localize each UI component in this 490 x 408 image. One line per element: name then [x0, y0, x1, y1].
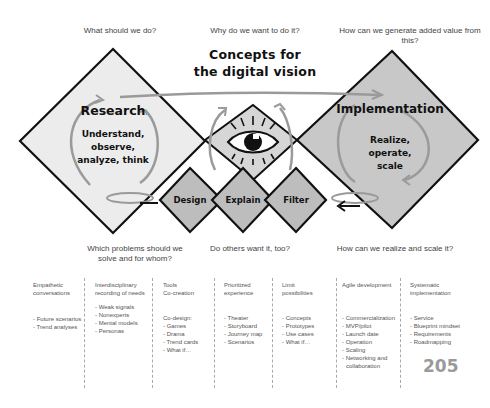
step-design: Design: [174, 195, 207, 205]
svg-text:Understand,: Understand,: [82, 129, 145, 139]
column-prioritized: Prioritizedexperience - Theater- Storybo…: [224, 281, 262, 346]
question-others-want: Do others want it, too?: [190, 244, 310, 254]
column-interdisciplinary: Interdisciplinaryrecording of needs - We…: [95, 281, 145, 335]
process-diagram: Research Understand, observe, analyze, t…: [0, 0, 490, 270]
question-realize-scale: How can we realize and scale it?: [330, 244, 460, 254]
implementation-title: Implementation: [336, 102, 443, 116]
svg-text:Realize,: Realize,: [370, 135, 410, 145]
step-filter: Filter: [283, 195, 309, 205]
column-separator: [400, 278, 401, 388]
column-separator: [214, 278, 215, 388]
step-explain: Explain: [226, 195, 261, 205]
svg-text:operate,: operate,: [368, 148, 411, 158]
column-empathetic: Empatheticconversations - Future scenari…: [33, 281, 81, 331]
column-limit: Limitpossibilities - Concepts- Prototype…: [282, 281, 314, 346]
column-systematic: Systematicimplementation - Service- Blue…: [410, 281, 460, 346]
column-separator: [84, 278, 85, 388]
column-separator: [272, 278, 273, 388]
svg-text:observe,: observe,: [91, 142, 135, 152]
column-separator: [152, 278, 153, 388]
research-title: Research: [81, 103, 146, 118]
column-agile: Agile development - Commercialization- M…: [342, 281, 395, 370]
question-which-problems: Which problems should we solve and for w…: [85, 244, 185, 264]
svg-text:scale: scale: [377, 161, 403, 171]
column-separator: [336, 278, 337, 388]
svg-text:analyze, think: analyze, think: [77, 155, 150, 165]
page-number: 205: [423, 356, 459, 376]
column-tools: ToolsCo-creation Co-design:- Games- Dram…: [163, 281, 198, 354]
